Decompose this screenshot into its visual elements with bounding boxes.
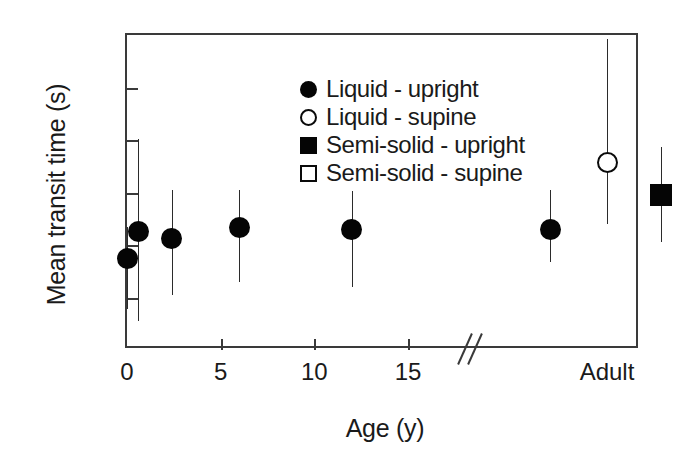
error-bar <box>607 39 608 224</box>
legend-item: Liquid - supine <box>300 103 525 131</box>
x-tick-mark <box>221 339 223 350</box>
legend-item-label: Semi-solid - upright <box>326 131 525 159</box>
y-tick-mark <box>127 88 138 90</box>
legend-item: Semi-solid - upright <box>300 131 525 159</box>
y-axis-title: Mean transit time (s) <box>42 35 71 355</box>
y-tick-mark <box>127 245 138 247</box>
x-tick-label: 5 <box>186 360 256 384</box>
legend-item: Liquid - upright <box>300 75 525 103</box>
figure-canvas: Mean transit time (s) Age (y) 024681012 … <box>0 0 684 476</box>
x-axis-title: Age (y) <box>125 414 645 443</box>
data-point-marker <box>650 184 672 206</box>
legend-item-label: Semi-solid - supine <box>326 159 522 187</box>
data-point-marker <box>341 219 362 240</box>
x-tick-label: 0 <box>92 360 162 384</box>
data-point-marker <box>117 248 138 269</box>
x-tick-mark <box>408 339 410 350</box>
y-tick-mark <box>127 193 138 195</box>
legend-marker-square-filled-icon <box>300 137 326 154</box>
y-tick-mark <box>127 298 138 300</box>
y-tick-mark <box>127 140 138 142</box>
data-point-marker <box>229 217 250 238</box>
legend-marker-circle-filled-icon <box>300 81 326 98</box>
plot-area: 024681012 051015Adult Liquid - uprightLi… <box>125 33 638 348</box>
data-point-marker <box>540 219 561 240</box>
legend-item: Semi-solid - supine <box>300 159 525 187</box>
legend-marker-square-open-icon <box>300 165 326 182</box>
x-tick-label: 10 <box>279 360 349 384</box>
data-point-marker <box>597 152 618 173</box>
data-point-marker <box>161 228 182 249</box>
legend-item-label: Liquid - supine <box>326 103 476 131</box>
data-point-marker <box>128 221 149 242</box>
x-tick-label-adult: Adult <box>537 360 677 384</box>
legend-item-label: Liquid - upright <box>326 75 478 103</box>
x-tick-label: 15 <box>373 360 443 384</box>
x-tick-mark <box>314 339 316 350</box>
legend-marker-circle-open-icon <box>300 109 326 126</box>
chart-legend: Liquid - uprightLiquid - supineSemi-soli… <box>300 75 525 187</box>
